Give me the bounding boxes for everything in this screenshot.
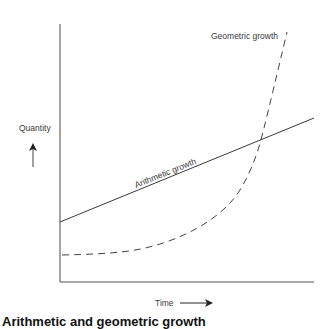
- arithmetic-growth-line: [60, 118, 314, 222]
- x-axis-label: Time: [155, 298, 174, 308]
- figure-caption: Arithmetic and geometric growth: [2, 315, 206, 328]
- y-axis-label: Quantity: [19, 123, 51, 133]
- arithmetic-growth-label: Arithmetic growth: [133, 156, 198, 190]
- geometric-growth-curve: [62, 32, 287, 255]
- geometric-growth-label: Geometric growth: [211, 31, 278, 41]
